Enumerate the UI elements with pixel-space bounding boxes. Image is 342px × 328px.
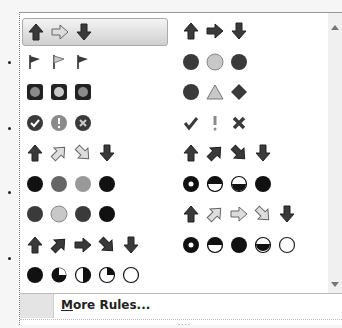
icon-set-3-symbols-circled[interactable]	[22, 110, 166, 136]
gallery-scrollbar[interactable]	[328, 13, 342, 293]
icon-set-5-ratings[interactable]	[178, 232, 322, 258]
bullet	[8, 257, 11, 260]
arrow-up-dark-icon	[182, 144, 200, 162]
icon-set-4-arrows-colored[interactable]	[178, 140, 322, 166]
icon-set-5-quarters[interactable]	[22, 262, 166, 288]
scroll-down-icon[interactable]	[331, 282, 339, 287]
icon-set-3-traffic-lights-rimmed[interactable]	[22, 79, 166, 105]
half-bottom-black-icon	[254, 236, 272, 254]
pie-3q-icon	[50, 266, 68, 284]
arrow-upright-outline-icon	[206, 205, 224, 223]
arrow-down-dark-icon	[122, 236, 140, 254]
arrow-downright-outline-icon	[254, 205, 272, 223]
menu-gutter	[20, 294, 54, 318]
circle-dark-icon	[230, 53, 248, 71]
icon-set-4-traffic-lights[interactable]	[22, 201, 166, 227]
arrow-right-outline-icon	[230, 205, 248, 223]
icon-set-3-arrows-colored[interactable]	[22, 18, 168, 46]
icon-set-5-arrows-gray[interactable]	[178, 201, 322, 227]
bullet	[8, 191, 11, 194]
circle-light-icon	[50, 205, 68, 223]
circle-dark-icon	[182, 53, 200, 71]
pie-1q-icon	[98, 266, 116, 284]
icon-set-3-traffic-lights-unrimmed[interactable]	[178, 49, 322, 75]
icon-set-4-ratings[interactable]	[178, 171, 322, 197]
arrow-up-dark-icon	[26, 144, 44, 162]
flag-dark-icon	[26, 53, 44, 71]
half-top-white-icon	[206, 175, 224, 193]
scroll-up-icon[interactable]	[331, 25, 339, 30]
arrow-up-dark-icon	[26, 236, 44, 254]
circle-black-icon	[26, 175, 44, 193]
icon-set-3-arrows-gray[interactable]	[178, 18, 322, 44]
icon-set-3-flags[interactable]	[22, 49, 166, 75]
icon-set-4-red-to-black[interactable]	[22, 171, 166, 197]
pie-empty-icon	[122, 266, 140, 284]
arrow-upright-dark-icon	[50, 236, 68, 254]
icon-set-3-signs[interactable]	[178, 79, 322, 105]
icon-set-3-symbols-uncircled[interactable]	[178, 110, 322, 136]
ring-black-icon	[182, 236, 200, 254]
circle-black-icon	[98, 175, 116, 193]
circle-lightgray-icon	[74, 175, 92, 193]
arrow-up-dark-icon	[182, 22, 200, 40]
circle-black-icon	[98, 205, 116, 223]
pie-half-icon	[74, 266, 92, 284]
arrow-down-dark-icon	[75, 23, 93, 41]
arrow-downright-dark-icon	[98, 236, 116, 254]
label-rest: ore Rules...	[73, 298, 150, 312]
arrow-down-dark-icon	[254, 144, 272, 162]
circle-black-icon	[230, 236, 248, 254]
more-rules-menu-item[interactable]: More Rules...	[20, 293, 342, 318]
check-icon	[182, 114, 200, 132]
icon-set-4-arrows-gray[interactable]	[22, 140, 166, 166]
x-icon	[230, 114, 248, 132]
arrow-up-dark-icon	[27, 23, 45, 41]
flag-dark-icon	[74, 53, 92, 71]
ring-black-icon	[182, 175, 200, 193]
exclaim-circle-icon	[50, 114, 68, 132]
arrow-upright-dark-icon	[206, 144, 224, 162]
light-square-mid-icon	[50, 83, 68, 101]
arrow-right-outline-icon	[51, 23, 69, 41]
mnemonic: M	[61, 298, 73, 312]
bullet	[8, 127, 11, 130]
arrow-down-dark-icon	[98, 144, 116, 162]
circle-light-icon	[206, 53, 224, 71]
pie-full-icon	[26, 266, 44, 284]
circle-dark-icon	[182, 83, 200, 101]
icon-sets-dropdown: More Rules... ....	[19, 12, 342, 325]
circle-black-icon	[254, 175, 272, 193]
circle-dark-icon	[26, 205, 44, 223]
x-circle-icon	[74, 114, 92, 132]
light-square-dark-icon	[26, 83, 44, 101]
arrow-downright-dark-icon	[230, 144, 248, 162]
arrow-down-dark-icon	[230, 22, 248, 40]
arrow-right-dark-icon	[206, 22, 224, 40]
exclaim-icon	[206, 114, 224, 132]
light-square-dark-icon	[74, 83, 92, 101]
arrow-upright-outline-icon	[50, 144, 68, 162]
resize-grip[interactable]: ....	[20, 319, 342, 324]
more-rules-label: More Rules...	[61, 298, 150, 312]
icon-set-gallery	[20, 13, 328, 293]
triangle-light-icon	[206, 83, 224, 101]
grip-dots: ....	[178, 320, 191, 326]
bullet	[8, 61, 11, 64]
arrow-up-dark-icon	[182, 205, 200, 223]
half-bottom-white-icon	[230, 175, 248, 193]
flag-light-icon	[50, 53, 68, 71]
half-top-white-icon	[206, 236, 224, 254]
arrow-right-dark-icon	[74, 236, 92, 254]
diamond-dark-icon	[230, 83, 248, 101]
icon-set-5-arrows-colored[interactable]	[22, 232, 166, 258]
circle-dark-icon	[74, 205, 92, 223]
check-circle-icon	[26, 114, 44, 132]
circle-empty-icon	[278, 236, 296, 254]
arrow-down-dark-icon	[278, 205, 296, 223]
arrow-downright-outline-icon	[74, 144, 92, 162]
circle-gray-icon	[50, 175, 68, 193]
